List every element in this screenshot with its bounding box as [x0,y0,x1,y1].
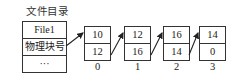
arrow-dir-to-block-0 [66,33,83,46]
arrow-block-1-to-2 [151,33,162,55]
arrow-block-2-to-3 [189,33,198,55]
arrow-block-0-to-1 [111,33,123,55]
pointer-arrows [0,0,238,79]
